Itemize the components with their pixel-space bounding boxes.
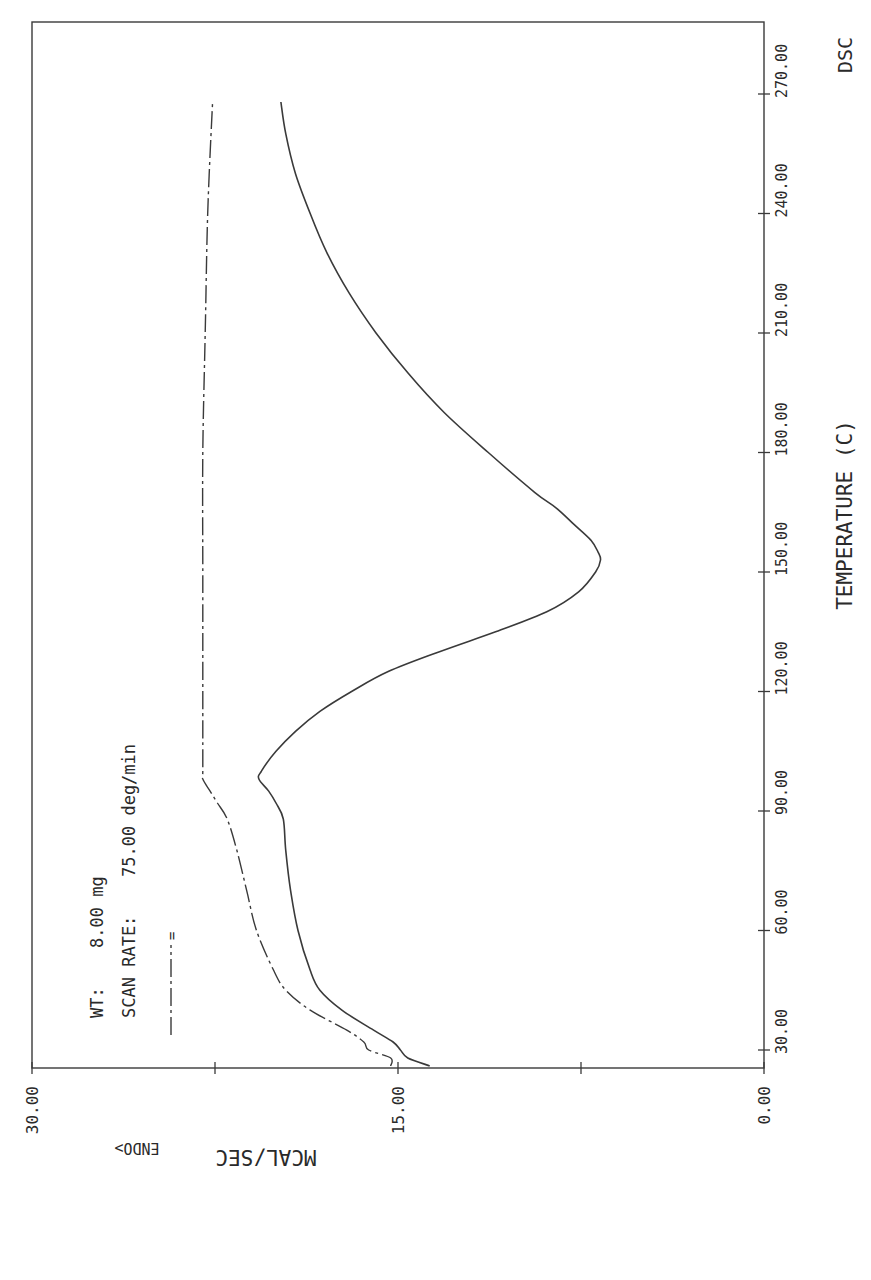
heatflow-tick-label: 30.00 (23, 1086, 42, 1134)
heatflow-tick-label: 0.00 (755, 1086, 774, 1125)
temperature-tick-label: 180.00 (773, 402, 791, 456)
temperature-tick-label: 60.00 (773, 889, 791, 934)
series-solid-curve (258, 102, 600, 1066)
y-axis-label: MCAL/SEC (215, 1145, 316, 1169)
temperature-tick-label: 270.00 (773, 44, 791, 98)
weight-label: WT: (87, 987, 107, 1018)
heatflow-tick-label: 15.00 (389, 1086, 408, 1134)
temperature-tick-label: 210.00 (773, 283, 791, 337)
weight-value: 8.00 mg (87, 876, 107, 948)
scan-rate-label: SCAN RATE: (119, 916, 139, 1018)
plot-frame (32, 22, 764, 1068)
temperature-tick-label: 90.00 (773, 770, 791, 815)
endo-direction-label: ENDO> (114, 1139, 159, 1157)
scan-rate-value: 75.00 deg/min (119, 744, 139, 877)
series-dashdot-curve (202, 102, 392, 1066)
temperature-tick-label: 120.00 (773, 641, 791, 695)
legend-marker: = (164, 932, 180, 940)
x-axis-label: TEMPERATURE (C) (833, 420, 857, 610)
temperature-tick-label: 150.00 (773, 522, 791, 576)
heatflow-axis-ticks: 0.0015.0030.00 (23, 1062, 774, 1134)
temperature-axis-ticks: 30.0060.0090.00120.00150.00180.00210.002… (758, 44, 791, 1054)
temperature-tick-label: 30.00 (773, 1009, 791, 1054)
dsc-chart: 30.0060.0090.00120.00150.00180.00210.002… (0, 0, 871, 1280)
chart-title: DSC (833, 37, 857, 73)
temperature-tick-label: 240.00 (773, 163, 791, 217)
